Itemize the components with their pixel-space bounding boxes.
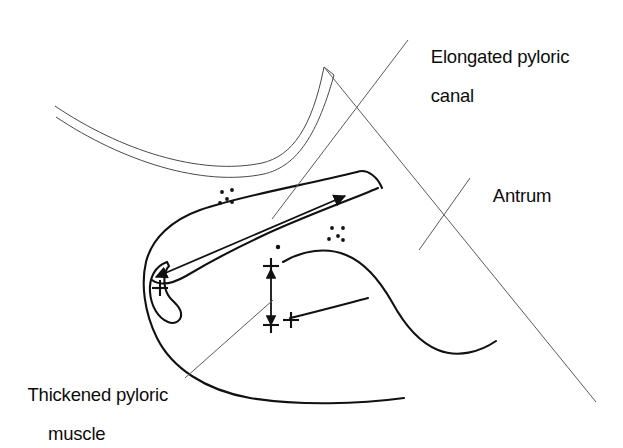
label-elongated-pyloric-canal-line1: Elongated pyloric bbox=[431, 46, 570, 67]
caliper-plus-muscle-top bbox=[263, 258, 279, 274]
leader-line-thickened-pyloric-muscle bbox=[185, 300, 273, 378]
single-dot-marker bbox=[276, 245, 280, 249]
upper-arc-outline bbox=[55, 67, 334, 177]
pyloric-stenosis-diagram: Elongated pyloric canal Antrum Thickened… bbox=[0, 0, 623, 448]
leader-line-elongated-pyloric-canal bbox=[272, 40, 408, 219]
canal-length-arrow bbox=[156, 196, 345, 277]
label-elongated-pyloric-canal-line2: canal bbox=[431, 85, 474, 106]
label-thickened-pyloric-muscle: Thickened pyloric muscle bbox=[8, 365, 168, 448]
label-antrum: Antrum bbox=[474, 166, 551, 225]
label-elongated-pyloric-canal: Elongated pyloric canal bbox=[411, 27, 569, 126]
caliper-plus-muscle-side bbox=[283, 312, 299, 328]
label-thickened-pyloric-muscle-line1: Thickened pyloric bbox=[27, 384, 168, 405]
label-antrum-line1: Antrum bbox=[493, 185, 551, 206]
dot-cluster-antrum bbox=[327, 226, 345, 242]
caliper-plus-muscle-bottom bbox=[263, 317, 279, 333]
leader-line-antrum bbox=[419, 178, 470, 250]
label-thickened-pyloric-muscle-line2: muscle bbox=[8, 424, 168, 444]
